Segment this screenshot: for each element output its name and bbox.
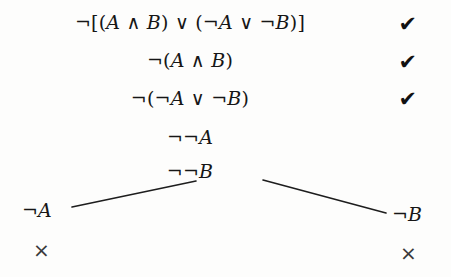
branch-line-right (263, 180, 386, 213)
tree-node-line-2: ¬(A ∧ B) (0, 51, 380, 70)
close-mark-right: × (400, 243, 417, 263)
truth-tree-diagram: ¬[(A ∧ B) ∨ (¬A ∨ ¬B)] ✔ ¬(A ∧ B) ✔ ¬(¬A… (0, 0, 451, 277)
checkmark-line-2: ✔ (399, 52, 417, 73)
branch-line-left (72, 181, 196, 207)
checkmark-line-3: ✔ (399, 89, 417, 110)
tree-leaf-left: ¬A (22, 201, 52, 220)
checkmark-line-1: ✔ (399, 14, 417, 35)
tree-node-line-3: ¬(¬A ∨ ¬B) (0, 89, 380, 108)
close-mark-left: × (33, 240, 50, 260)
tree-node-line-1: ¬[(A ∧ B) ∨ (¬A ∨ ¬B)] (0, 13, 380, 32)
tree-node-line-4: ¬¬A (0, 128, 380, 147)
tree-node-line-5: ¬¬B (0, 162, 380, 181)
tree-leaf-right: ¬B (392, 205, 422, 224)
